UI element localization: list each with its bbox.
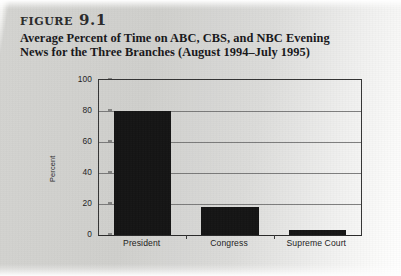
x-axis-tick-mark [186,235,187,239]
x-axis-tick-mark [274,235,275,239]
page-top-fade [0,0,401,9]
y-axis-label: Percent [48,122,57,182]
plot-area [98,79,362,236]
y-axis-tick-label: 100 [62,74,92,84]
y-axis-ticks: 020406080100 [62,72,92,227]
bar-president[interactable] [114,111,171,235]
x-axis-label-president: President [123,238,160,248]
y-axis-tick-label: 40 [62,167,92,177]
figure-page: figure 9.1 Average Percent of Time on AB… [0,0,401,276]
figure-caption: figure 9.1 Average Percent of Time on AB… [20,12,370,59]
y-axis-tick-label: 80 [62,105,92,115]
y-axis-tick-label: 0 [62,229,92,239]
x-axis-label-congress: Congress [210,238,248,248]
x-axis-label-supreme-court: Supreme Court [287,238,347,248]
figure-title: Average Percent of Time on ABC, CBS, and… [20,31,370,59]
figure-title-line-1: Average Percent of Time on ABC, CBS, and… [20,31,330,45]
y-axis-tick-label: 20 [62,198,92,208]
page-bottom-fade [0,264,401,276]
figure-title-line-2: News for the Three Branches (August 1994… [20,45,310,59]
y-axis-tick-label: 60 [62,136,92,146]
bar-chart: Percent 020406080100 PresidentCongressSu… [48,72,368,247]
bar-congress[interactable] [201,207,258,235]
bar-supreme-court[interactable] [289,230,346,235]
figure-number: figure 9.1 [20,12,370,29]
